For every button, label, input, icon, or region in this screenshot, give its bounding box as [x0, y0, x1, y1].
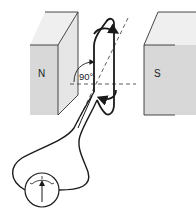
generator-diagram: N S 90°	[0, 0, 196, 214]
south-magnet-label: S	[154, 68, 161, 79]
north-magnet-face	[30, 45, 58, 115]
south-magnet-face	[144, 45, 196, 115]
north-magnet	[30, 12, 78, 115]
angle-label: 90°	[79, 71, 94, 82]
lead-wire-right	[59, 100, 97, 190]
south-magnet-top	[144, 12, 196, 45]
north-magnet-label: N	[38, 68, 45, 79]
galvanometer	[25, 173, 59, 207]
south-magnet	[144, 12, 196, 115]
